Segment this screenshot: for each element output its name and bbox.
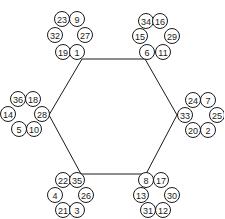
number-node: 23 xyxy=(55,12,70,27)
node-label: 13 xyxy=(136,191,146,201)
node-label: 9 xyxy=(74,15,79,25)
node-label: 12 xyxy=(158,206,168,216)
number-node: 29 xyxy=(165,29,180,44)
number-node: 6 xyxy=(140,45,155,60)
number-node: 1 xyxy=(70,45,85,60)
cluster-left: 36181428510 xyxy=(1,92,50,137)
node-label: 10 xyxy=(29,125,39,135)
node-label: 31 xyxy=(143,206,153,216)
node-label: 8 xyxy=(143,176,148,186)
node-label: 4 xyxy=(52,191,57,201)
node-label: 26 xyxy=(81,191,91,201)
cluster-bottom-right: 81713303112 xyxy=(134,173,180,218)
number-node: 8 xyxy=(139,173,154,188)
number-node: 4 xyxy=(48,188,63,203)
number-node: 32 xyxy=(48,28,63,43)
node-label: 28 xyxy=(37,110,47,120)
number-node: 7 xyxy=(201,93,216,108)
node-label: 32 xyxy=(50,31,60,41)
number-node: 25 xyxy=(210,108,225,123)
node-label: 23 xyxy=(57,15,67,25)
number-node: 36 xyxy=(11,92,26,107)
number-node: 24 xyxy=(186,93,201,108)
node-label: 15 xyxy=(135,32,145,42)
node-label: 33 xyxy=(180,111,190,121)
number-node: 31 xyxy=(141,203,156,218)
node-label: 11 xyxy=(158,48,167,58)
hexagon-diagram: 2393227191341615296113618142851024733252… xyxy=(0,0,224,219)
number-node: 13 xyxy=(134,188,149,203)
number-node: 20 xyxy=(186,123,201,138)
hexagon-outline xyxy=(49,59,177,174)
node-label: 29 xyxy=(167,32,177,42)
cluster-bottom-left: 2235426213 xyxy=(48,173,94,218)
number-node: 33 xyxy=(178,108,193,123)
node-label: 27 xyxy=(80,31,90,41)
node-label: 35 xyxy=(72,176,82,186)
number-node: 30 xyxy=(165,188,180,203)
number-node: 16 xyxy=(153,14,168,29)
number-node: 26 xyxy=(79,188,94,203)
node-label: 6 xyxy=(144,48,149,58)
cluster-top-right: 34161529611 xyxy=(133,14,180,60)
number-node: 2 xyxy=(201,123,216,138)
number-node: 14 xyxy=(1,107,16,122)
node-label: 19 xyxy=(58,48,68,58)
node-label: 34 xyxy=(141,17,151,27)
number-node: 17 xyxy=(154,173,169,188)
node-label: 5 xyxy=(16,125,21,135)
number-node: 19 xyxy=(56,45,71,60)
number-node: 35 xyxy=(70,173,85,188)
node-label: 36 xyxy=(13,95,23,105)
number-node: 11 xyxy=(156,45,171,60)
node-label: 2 xyxy=(205,126,210,136)
node-label: 25 xyxy=(212,111,222,121)
cluster-top-left: 2393227191 xyxy=(48,12,93,60)
node-label: 18 xyxy=(28,95,38,105)
node-label: 3 xyxy=(74,206,79,216)
node-label: 30 xyxy=(167,191,177,201)
node-label: 14 xyxy=(3,110,13,120)
number-node: 28 xyxy=(35,107,50,122)
cluster-right: 2473325202 xyxy=(178,93,225,138)
node-label: 20 xyxy=(188,126,198,136)
number-clusters: 2393227191341615296113618142851024733252… xyxy=(1,12,225,218)
node-label: 16 xyxy=(155,17,165,27)
number-node: 22 xyxy=(56,173,71,188)
number-node: 5 xyxy=(12,122,27,137)
number-node: 34 xyxy=(139,14,154,29)
number-node: 27 xyxy=(78,28,93,43)
node-label: 24 xyxy=(188,96,198,106)
number-node: 9 xyxy=(70,12,85,27)
number-node: 15 xyxy=(133,29,148,44)
node-label: 21 xyxy=(58,206,68,216)
number-node: 10 xyxy=(27,122,42,137)
node-label: 22 xyxy=(58,176,68,186)
node-label: 17 xyxy=(156,176,166,186)
number-node: 18 xyxy=(26,92,41,107)
number-node: 12 xyxy=(156,203,171,218)
node-label: 1 xyxy=(74,48,79,58)
node-label: 7 xyxy=(205,96,210,106)
number-node: 3 xyxy=(70,203,85,218)
number-node: 21 xyxy=(56,203,71,218)
